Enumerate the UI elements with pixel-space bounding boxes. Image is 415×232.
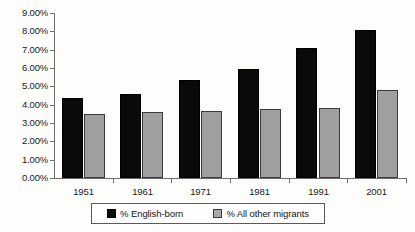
gray-square-icon <box>213 209 222 218</box>
x-axis-tick <box>171 178 172 183</box>
x-axis-tick-label: 1951 <box>54 186 113 197</box>
chart-legend: % English-born % All other migrants <box>91 203 325 224</box>
y-axis-tick-label: 5.00% <box>2 80 48 91</box>
y-axis-tick-label-wrap: 2.00% <box>0 135 48 146</box>
legend-item-all-other-migrants: % All other migrants <box>213 208 308 219</box>
bar-1991-series-1 <box>319 108 340 178</box>
bar-2001-series-1 <box>377 90 398 178</box>
y-axis-tick-label: 1.00% <box>2 154 48 165</box>
x-axis-tick-label: 1991 <box>289 186 348 197</box>
y-axis-tick-label-wrap: 1.00% <box>0 154 48 165</box>
y-axis-tick-label: 7.00% <box>2 44 48 55</box>
legend-item-label: % All other migrants <box>226 208 308 219</box>
bar-1961-series-0 <box>120 94 141 178</box>
bar-2001-series-0 <box>355 30 376 178</box>
x-axis-tick <box>289 178 290 183</box>
bar-1981-series-0 <box>238 69 259 178</box>
y-axis-tick-label-wrap: 5.00% <box>0 80 48 91</box>
plot-area <box>54 13 406 178</box>
legend-item-english-born: % English-born <box>107 208 183 219</box>
y-axis-tick-label-wrap: 7.00% <box>0 44 48 55</box>
y-axis-tick-label-wrap: 4.00% <box>0 99 48 110</box>
y-axis-tick-label: 2.00% <box>2 135 48 146</box>
legend-item-label: % English-born <box>120 208 183 219</box>
bar-1951-series-1 <box>84 114 105 178</box>
x-axis-tick <box>347 178 348 183</box>
y-axis-tick-label-wrap: 3.00% <box>0 117 48 128</box>
x-axis-tick <box>113 178 114 183</box>
bar-1971-series-0 <box>179 80 200 178</box>
x-axis-tick-label: 2001 <box>347 186 406 197</box>
x-axis-tick-label: 1971 <box>171 186 230 197</box>
bar-1991-series-0 <box>296 48 317 178</box>
y-axis-tick-label-wrap: 6.00% <box>0 62 48 73</box>
bar-1951-series-0 <box>62 98 83 178</box>
x-axis-tick-label: 1981 <box>230 186 289 197</box>
y-axis-tick-label-wrap: 8.00% <box>0 25 48 36</box>
y-axis-tick-label: 3.00% <box>2 117 48 128</box>
bar-chart: 0.00%1.00%2.00%3.00%4.00%5.00%6.00%7.00%… <box>0 0 415 232</box>
x-axis-tick <box>406 178 407 183</box>
y-axis-tick-label: 0.00% <box>2 172 48 183</box>
x-axis-tick-label: 1961 <box>113 186 172 197</box>
bar-1981-series-1 <box>260 109 281 178</box>
y-axis-tick-label: 6.00% <box>2 62 48 73</box>
black-square-icon <box>107 209 116 218</box>
y-axis-tick-label: 4.00% <box>2 99 48 110</box>
y-axis-tick-label: 9.00% <box>2 7 48 18</box>
x-axis-tick <box>230 178 231 183</box>
bar-1971-series-1 <box>201 111 222 178</box>
y-axis-tick-label: 8.00% <box>2 25 48 36</box>
y-axis-tick-label-wrap: 0.00% <box>0 172 48 183</box>
y-axis-tick-label-wrap: 9.00% <box>0 7 48 18</box>
bar-1961-series-1 <box>142 112 163 178</box>
y-axis-tick <box>50 178 55 179</box>
